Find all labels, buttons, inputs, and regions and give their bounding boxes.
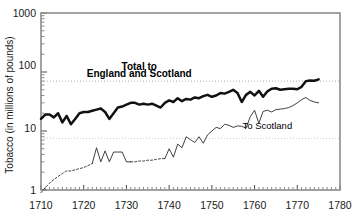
y-axis-tick-labels: 1000 100 10 1 xyxy=(13,7,37,196)
y-tick-label-1: 1 xyxy=(30,184,36,196)
axis-minor-ticks xyxy=(41,16,336,190)
plot-frame xyxy=(41,13,340,190)
x-tick-label-1720: 1720 xyxy=(72,199,96,211)
tobacco-imports-log-line-chart: 1000 100 10 1 1710 1720 1730 1740 1750 1… xyxy=(0,0,354,218)
axis-major-ticks xyxy=(41,13,340,190)
x-tick-label-1740: 1740 xyxy=(157,199,181,211)
chart-figure: 1000 100 10 1 1710 1720 1730 1740 1750 1… xyxy=(0,0,354,218)
series-line-total-england-and-scotland xyxy=(41,79,319,124)
y-axis-label: Tobacco (in millions of pounds) xyxy=(4,36,15,173)
x-tick-label-1750: 1750 xyxy=(200,199,224,211)
y-tick-label-1000: 1000 xyxy=(13,7,37,19)
x-tick-label-1730: 1730 xyxy=(115,199,139,211)
y-tick-label-10: 10 xyxy=(24,122,36,134)
x-tick-label-1760: 1760 xyxy=(243,199,267,211)
y-tick-label-100: 100 xyxy=(18,59,36,71)
x-axis-tick-labels: 1710 1720 1730 1740 1750 1760 1770 1780 xyxy=(29,199,352,211)
x-tick-label-1710: 1710 xyxy=(29,199,53,211)
x-tick-label-1770: 1770 xyxy=(286,199,310,211)
annotation-to-scotland: To Scotland xyxy=(243,120,293,131)
annotation-total-line2: England and Scotland xyxy=(87,68,192,79)
x-tick-label-1780: 1780 xyxy=(328,199,352,211)
